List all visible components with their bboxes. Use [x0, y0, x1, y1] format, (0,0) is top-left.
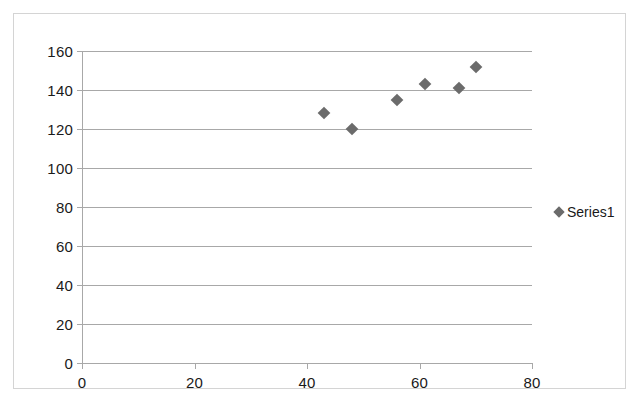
- y-tick-100: [77, 168, 83, 169]
- x-tick-80: [532, 363, 533, 369]
- gridline-y-20: [82, 324, 532, 325]
- data-point[interactable]: [346, 123, 359, 136]
- x-tick-label-80: 80: [523, 374, 540, 391]
- y-axis-labels: 020406080100120140160: [14, 14, 73, 388]
- gridline-y-100: [82, 168, 532, 169]
- y-tick-label-120: 120: [13, 121, 73, 138]
- x-tick-60: [420, 363, 421, 369]
- y-tick-160: [77, 51, 83, 52]
- data-point[interactable]: [391, 93, 404, 106]
- x-tick-label-0: 0: [78, 374, 87, 391]
- data-point[interactable]: [318, 107, 331, 120]
- legend-label-series1: Series1: [567, 204, 614, 220]
- data-point[interactable]: [453, 82, 466, 95]
- y-tick-120: [77, 129, 83, 130]
- y-tick-label-60: 60: [13, 238, 73, 255]
- x-tick-20: [195, 363, 196, 369]
- gridline-y-40: [82, 285, 532, 286]
- gridline-y-60: [82, 246, 532, 247]
- y-tick-20: [77, 324, 83, 325]
- x-tick-40: [307, 363, 308, 369]
- y-tick-60: [77, 246, 83, 247]
- legend-marker-icon: [553, 206, 564, 217]
- y-tick-label-80: 80: [13, 199, 73, 216]
- y-tick-label-20: 20: [13, 316, 73, 333]
- data-point[interactable]: [469, 60, 482, 73]
- gridline-y-140: [82, 90, 532, 91]
- y-tick-label-140: 140: [13, 82, 73, 99]
- gridline-y-120: [82, 129, 532, 130]
- y-tick-label-40: 40: [13, 277, 73, 294]
- x-tick-label-40: 40: [298, 374, 315, 391]
- y-tick-140: [77, 90, 83, 91]
- plot-area: [82, 51, 532, 363]
- x-tick-label-60: 60: [411, 374, 428, 391]
- y-tick-label-0: 0: [13, 355, 73, 372]
- y-tick-80: [77, 207, 83, 208]
- y-tick-label-100: 100: [13, 160, 73, 177]
- x-tick-0: [82, 363, 83, 369]
- data-point[interactable]: [419, 78, 432, 91]
- chart-container: 020406080100120140160 Series1 020406080: [13, 13, 626, 389]
- gridline-y-80: [82, 207, 532, 208]
- gridline-y-160: [82, 51, 532, 52]
- y-tick-40: [77, 285, 83, 286]
- x-tick-label-20: 20: [186, 374, 203, 391]
- y-tick-label-160: 160: [13, 43, 73, 60]
- chart-legend: Series1: [555, 204, 614, 220]
